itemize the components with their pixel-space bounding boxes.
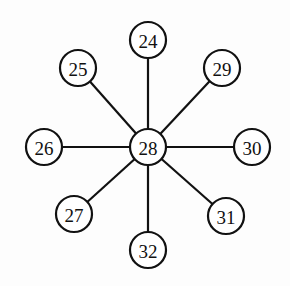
nodes: 282425292630273132: [26, 22, 270, 268]
node-31: 31: [208, 198, 244, 234]
node-27: 27: [56, 196, 92, 232]
node-label: 29: [213, 59, 232, 80]
node-32: 32: [130, 232, 166, 268]
node-24: 24: [130, 22, 166, 58]
node-30: 30: [234, 129, 270, 165]
node-label: 24: [139, 31, 159, 52]
node-label: 32: [139, 241, 158, 262]
node-label: 28: [139, 138, 158, 159]
node-label: 27: [65, 205, 84, 226]
node-label: 30: [243, 138, 262, 159]
node-label: 31: [217, 207, 236, 228]
node-29: 29: [204, 50, 240, 86]
node-26: 26: [26, 129, 62, 165]
node-label: 25: [69, 59, 88, 80]
node-25: 25: [60, 50, 96, 86]
star-graph-diagram: 282425292630273132: [0, 0, 290, 286]
node-28: 28: [130, 129, 166, 165]
node-label: 26: [35, 138, 54, 159]
